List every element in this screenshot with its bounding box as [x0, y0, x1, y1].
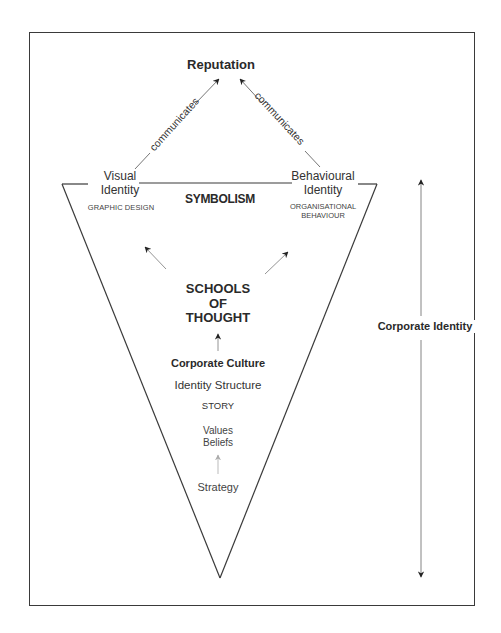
arrow-to-visual-identity — [145, 247, 166, 269]
strategy-label: Strategy — [178, 481, 258, 494]
visual-identity-node: Visual Identity — [80, 170, 160, 198]
schools-line2: OF — [168, 297, 268, 312]
behavioural-identity-node: Behavioural Identity — [278, 170, 368, 198]
reputation-node: Reputation — [171, 58, 271, 73]
beliefs-label: Beliefs — [178, 437, 258, 449]
symbolism-label: SYMBOLISM — [170, 193, 270, 207]
behavioural-identity-line2: Identity — [278, 184, 368, 198]
corporate-culture-label: Corporate Culture — [148, 357, 288, 370]
arrow-to-behavioural-identity — [265, 252, 288, 274]
values-label: Values — [178, 425, 258, 437]
graphic-design-label: GRAPHIC DESIGN — [76, 204, 166, 213]
organisational-behaviour-line2: BEHAVIOUR — [278, 212, 368, 221]
schools-of-thought-node: SCHOOLS OF THOUGHT — [168, 282, 268, 326]
visual-identity-line2: Identity — [80, 184, 160, 198]
corporate-identity-label: Corporate Identity — [367, 320, 483, 333]
story-label: STORY — [178, 401, 258, 412]
schools-line1: SCHOOLS — [168, 282, 268, 297]
values-beliefs-label: Values Beliefs — [178, 425, 258, 449]
behavioural-identity-line1: Behavioural — [278, 170, 368, 184]
identity-structure-label: Identity Structure — [148, 379, 288, 392]
organisational-behaviour-label: ORGANISATIONAL BEHAVIOUR — [278, 203, 368, 220]
schools-line3: THOUGHT — [168, 311, 268, 326]
visual-identity-line1: Visual — [80, 170, 160, 184]
